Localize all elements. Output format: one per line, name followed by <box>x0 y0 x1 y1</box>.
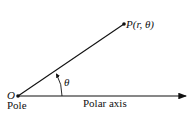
radius-line <box>18 24 124 96</box>
point-label: P(r, θ) <box>126 19 154 30</box>
pole-label: Pole <box>7 100 27 111</box>
polar-axis-label: Polar axis <box>83 98 127 109</box>
angle-arc <box>57 74 63 96</box>
angle-label: θ <box>64 77 69 88</box>
pole-point <box>16 94 20 98</box>
